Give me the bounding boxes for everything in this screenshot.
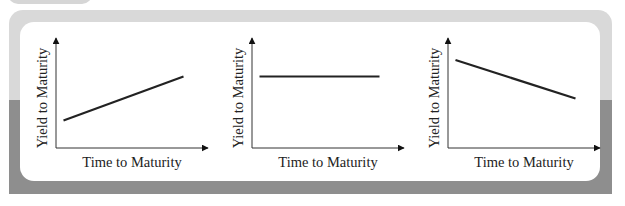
chart-2: Time to MaturityYield to Maturity xyxy=(230,38,404,170)
y-axis-label: Yield to Maturity xyxy=(426,47,442,148)
yield-curve-charts: Time to MaturityYield to MaturityTime to… xyxy=(0,0,625,206)
chart-3: Time to MaturityYield to Maturity xyxy=(426,38,600,170)
x-axis-label: Time to Maturity xyxy=(82,154,182,170)
y-axis-label: Yield to Maturity xyxy=(34,47,50,148)
yield-curve-line xyxy=(456,60,576,99)
x-axis-label: Time to Maturity xyxy=(474,154,574,170)
x-axis-label: Time to Maturity xyxy=(278,154,378,170)
chart-1: Time to MaturityYield to Maturity xyxy=(34,38,208,170)
y-axis-label: Yield to Maturity xyxy=(230,47,246,148)
yield-curve-line xyxy=(64,77,184,121)
